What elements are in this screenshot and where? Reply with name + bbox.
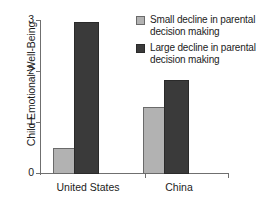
legend-item-large-decline: Large decline in parental decision makin… <box>136 42 268 65</box>
bar-china-large-decline <box>164 80 189 174</box>
bar-chart: Child Emotional Well-Being 3 2 1 0 <box>0 0 268 206</box>
bar-united-states-small-decline <box>53 148 75 174</box>
bar-united-states-large-decline <box>74 22 99 174</box>
y-tick-label: 0 <box>28 166 34 179</box>
legend-swatch-icon-small-decline <box>136 16 145 25</box>
legend-label-small-decline: Small decline in parental decision makin… <box>150 14 268 37</box>
legend-swatch-icon-large-decline <box>136 44 145 53</box>
y-tick-label: 2 <box>28 64 34 77</box>
legend: Small decline in parental decision makin… <box>136 14 268 70</box>
y-tick-label: 3 <box>28 13 34 26</box>
x-category-label-china: China <box>126 181 232 193</box>
legend-item-small-decline: Small decline in parental decision makin… <box>136 14 268 37</box>
y-tick-label: 1 <box>28 115 34 128</box>
bar-china-small-decline <box>143 107 165 174</box>
legend-label-large-decline: Large decline in parental decision makin… <box>150 42 268 65</box>
